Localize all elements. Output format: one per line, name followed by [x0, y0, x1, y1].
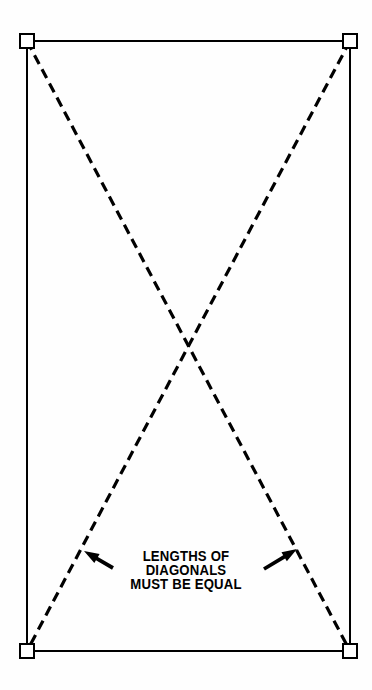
pointer-arrows-group	[84, 549, 297, 571]
right-pointer-arrow	[263, 549, 297, 571]
corner-square-marker-top-left	[20, 34, 34, 48]
corner-square-marker-bottom-left	[20, 644, 34, 658]
corner-square-marker-top-right	[343, 34, 357, 48]
diagram-vector-layer	[0, 0, 372, 690]
corner-square-marker-bottom-right	[343, 644, 357, 658]
left-pointer-arrow	[84, 551, 114, 570]
diagram-canvas: LENGTHS OF DIAGONALS MUST BE EQUAL	[0, 0, 372, 690]
diagonals-group	[27, 41, 350, 651]
